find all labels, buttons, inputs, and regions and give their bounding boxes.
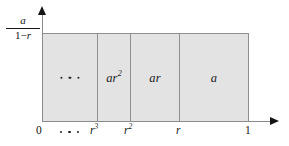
ellipsis-x-axis [60,131,79,133]
ellipsis-dot [69,76,71,78]
ellipsis-dot [68,131,70,133]
bar-ar-squared: ar2 [98,33,131,121]
bar-label-ar-base: ar [149,70,161,84]
fraction-denominator: 1−r [6,29,40,41]
x-tick-label-origin: 0 [36,124,42,136]
x-tick-one-base: 1 [245,124,251,136]
x-tick-r2-exponent: 2 [128,122,132,131]
ellipsis-dot [60,131,62,133]
bar-tail [43,33,98,121]
bar-ar: ar [131,33,180,121]
ellipsis-dot [77,76,79,78]
x-tick-origin-base: 0 [36,124,42,136]
x-axis-line [42,121,272,122]
bar-label-ar-squared-base: ar [106,70,118,84]
bar-group: ar2 ar a [43,33,249,121]
bar-label-ar-squared: ar2 [106,70,122,85]
bar-label-ar: ar [149,70,161,85]
x-axis-arrow-icon [270,117,279,125]
x-tick-label-r3: r3 [90,124,98,136]
x-tick-label-one: 1 [245,124,251,136]
bar-label-a: a [211,70,217,85]
fraction-denominator-prefix: 1− [15,29,27,41]
x-tick-label-r: r [176,124,180,136]
fraction-denominator-variable: r [27,29,31,41]
y-axis-value-label: a 1−r [6,15,40,41]
ellipsis-dot [60,76,62,78]
y-axis-arrow-icon [38,6,46,15]
x-tick-label-r2: r2 [124,124,132,136]
bar-a: a [180,33,249,121]
bar-label-a-base: a [211,70,217,84]
x-tick-r3-exponent: 3 [94,122,98,131]
bar-label-ar-squared-exponent: 2 [118,69,122,78]
ellipsis-inside-bar [60,76,79,78]
x-tick-r-base: r [176,124,180,136]
fraction-numerator: a [6,15,40,27]
ellipsis-dot [77,131,79,133]
geometric-series-figure: a 1−r ar2 ar a 0 r3 r [0,0,289,146]
